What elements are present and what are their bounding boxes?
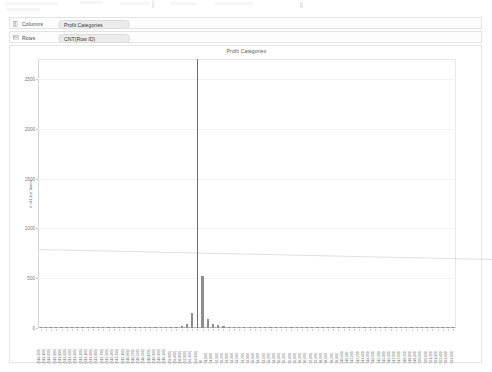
bar[interactable] bbox=[254, 327, 256, 328]
bar[interactable] bbox=[405, 327, 407, 328]
pill-profit-categories[interactable]: Profit Categories bbox=[58, 20, 130, 29]
bar[interactable] bbox=[76, 327, 78, 328]
bar[interactable] bbox=[322, 327, 324, 328]
x-tick-mark bbox=[396, 329, 397, 331]
bar[interactable] bbox=[87, 327, 89, 328]
x-tick-mark bbox=[412, 329, 413, 331]
bar[interactable] bbox=[170, 327, 172, 328]
bar[interactable] bbox=[228, 327, 230, 328]
bar[interactable] bbox=[149, 327, 151, 328]
bar[interactable] bbox=[410, 327, 412, 328]
bar[interactable] bbox=[269, 327, 271, 328]
bar[interactable] bbox=[175, 327, 177, 328]
bar-series[interactable] bbox=[38, 59, 456, 328]
bar[interactable] bbox=[379, 327, 381, 328]
bar[interactable] bbox=[71, 327, 73, 328]
bar[interactable] bbox=[311, 327, 313, 328]
bar[interactable] bbox=[238, 327, 240, 328]
x-tick-label: $6,600 bbox=[305, 354, 309, 364]
bar[interactable] bbox=[332, 327, 334, 328]
bar[interactable] bbox=[97, 327, 99, 328]
pill-cnt-row-id[interactable]: CNT(Row ID) bbox=[58, 34, 130, 43]
bar[interactable] bbox=[431, 327, 433, 328]
bar[interactable] bbox=[92, 327, 94, 328]
bar[interactable] bbox=[327, 327, 329, 328]
bar[interactable] bbox=[296, 327, 298, 328]
bar[interactable] bbox=[102, 327, 104, 328]
bar[interactable] bbox=[212, 324, 214, 328]
bar[interactable] bbox=[442, 327, 444, 328]
bar[interactable] bbox=[113, 327, 115, 328]
columns-shelf[interactable]: Columns Profit Categories bbox=[9, 17, 482, 29]
bar[interactable] bbox=[134, 327, 136, 328]
bar[interactable] bbox=[348, 327, 350, 328]
x-tick-label: $5,900 bbox=[294, 354, 298, 364]
bar[interactable] bbox=[358, 327, 360, 328]
bar[interactable] bbox=[128, 327, 130, 328]
worksheet-view[interactable]: Profit Categories 05001000150020002500 #… bbox=[9, 45, 482, 363]
x-tick-label: ($12,200) bbox=[117, 349, 121, 364]
bar[interactable] bbox=[306, 327, 308, 328]
x-tick-mark bbox=[77, 329, 78, 331]
bar[interactable] bbox=[316, 327, 318, 328]
bar[interactable] bbox=[384, 327, 386, 328]
bar[interactable] bbox=[369, 327, 371, 328]
bar[interactable] bbox=[60, 327, 62, 328]
bar[interactable] bbox=[118, 327, 120, 328]
bar[interactable] bbox=[55, 327, 57, 328]
bar[interactable] bbox=[452, 327, 454, 328]
bar[interactable] bbox=[191, 313, 193, 328]
bar[interactable] bbox=[363, 327, 365, 328]
x-tick-label: $5,300 bbox=[284, 354, 288, 364]
bar[interactable] bbox=[264, 327, 266, 328]
bar[interactable] bbox=[186, 324, 188, 328]
x-tick-mark bbox=[265, 329, 266, 331]
bar[interactable] bbox=[301, 327, 303, 328]
bar[interactable] bbox=[421, 327, 423, 328]
bar[interactable] bbox=[447, 327, 449, 328]
bar[interactable] bbox=[426, 327, 428, 328]
bar[interactable] bbox=[222, 326, 224, 328]
bar[interactable] bbox=[66, 327, 68, 328]
bar[interactable] bbox=[217, 325, 219, 328]
bar[interactable] bbox=[201, 276, 203, 328]
bar[interactable] bbox=[395, 327, 397, 328]
bar[interactable] bbox=[243, 327, 245, 328]
x-tick-label: ($13,100) bbox=[85, 349, 89, 364]
rows-shelf[interactable]: Rows CNT(Row ID) bbox=[9, 31, 482, 43]
bar[interactable] bbox=[233, 327, 235, 328]
x-tick-label: ($11,300) bbox=[143, 350, 147, 364]
chart-title: Profit Categories bbox=[10, 48, 483, 54]
bar[interactable] bbox=[107, 327, 109, 328]
bar[interactable] bbox=[280, 327, 282, 328]
bar[interactable] bbox=[437, 327, 439, 328]
bar[interactable] bbox=[259, 327, 261, 328]
bar[interactable] bbox=[81, 327, 83, 328]
bar[interactable] bbox=[160, 327, 162, 328]
bar[interactable] bbox=[353, 327, 355, 328]
bar[interactable] bbox=[144, 327, 146, 328]
bar[interactable] bbox=[275, 327, 277, 328]
bar[interactable] bbox=[40, 327, 42, 328]
bar[interactable] bbox=[374, 327, 376, 328]
bar[interactable] bbox=[390, 327, 392, 328]
bar[interactable] bbox=[154, 327, 156, 328]
bar[interactable] bbox=[197, 59, 198, 328]
bar[interactable] bbox=[165, 327, 167, 328]
bar[interactable] bbox=[50, 327, 52, 328]
bar[interactable] bbox=[290, 327, 292, 328]
plot-area[interactable]: 05001000150020002500 # of Line Items bbox=[38, 59, 456, 328]
bar[interactable] bbox=[416, 327, 418, 328]
bar[interactable] bbox=[207, 319, 209, 328]
x-tick-label: $4,700 bbox=[268, 354, 272, 364]
bar[interactable] bbox=[285, 327, 287, 328]
bar[interactable] bbox=[181, 326, 183, 328]
bar[interactable] bbox=[123, 327, 125, 328]
x-tick-label: $5,600 bbox=[289, 354, 293, 364]
bar[interactable] bbox=[343, 327, 345, 328]
bar[interactable] bbox=[139, 327, 141, 328]
bar[interactable] bbox=[337, 327, 339, 328]
bar[interactable] bbox=[45, 327, 47, 328]
bar[interactable] bbox=[249, 327, 251, 328]
bar[interactable] bbox=[400, 327, 402, 328]
